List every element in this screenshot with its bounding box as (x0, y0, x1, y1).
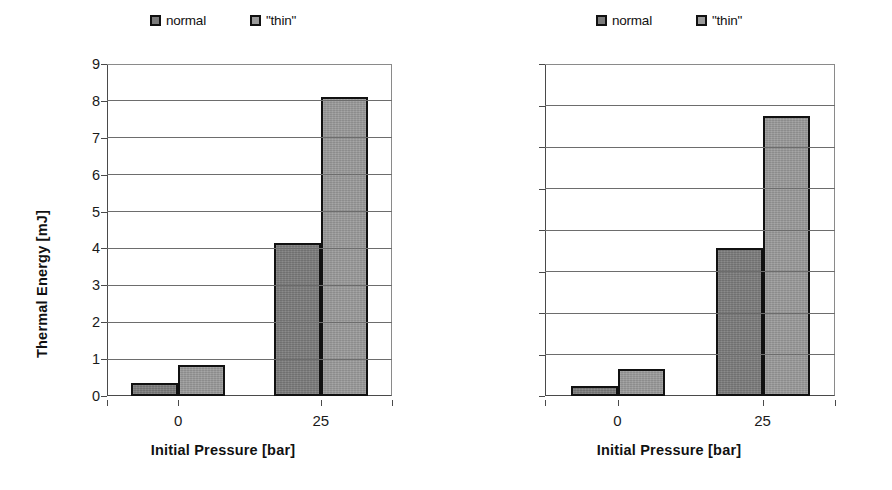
gridline (545, 354, 835, 355)
gridline (545, 188, 835, 189)
y-axis-tick-label: 4 (92, 240, 100, 256)
y-axis-tick (539, 396, 545, 397)
legend-label-thin: "thin" (712, 14, 742, 27)
gridline (107, 174, 392, 175)
y-axis-tick (101, 396, 107, 397)
y-axis-tick (539, 147, 545, 148)
x-axis-title-right: Initial Pressure [bar] (446, 442, 892, 458)
gridline (107, 248, 392, 249)
legend-item-thin: "thin" (250, 14, 296, 27)
x-axis-tick (107, 400, 108, 406)
gridline (545, 64, 835, 65)
bar-group-left (107, 64, 392, 396)
x-axis-title-left: Initial Pressure [bar] (0, 442, 446, 458)
chart-panel-thermal-energy: normal "thin" Thermal Energy [mJ] 012345… (0, 0, 446, 490)
y-axis-tick-label: 2 (92, 314, 100, 330)
y-axis-tick-label: 7 (92, 130, 100, 146)
legend-right: normal "thin" (446, 14, 892, 27)
gridline (107, 211, 392, 212)
bar-normal-0 (131, 383, 178, 396)
gridline (545, 147, 835, 148)
y-axis-tick (539, 189, 545, 190)
gridline (107, 359, 392, 360)
x-axis-tick (618, 400, 619, 406)
legend-swatch-thin-icon (696, 15, 707, 26)
y-axis-title-left: Thermal Energy [mJ] (34, 210, 50, 358)
bar-thin-0 (618, 369, 665, 396)
y-axis-tick (539, 106, 545, 107)
bar-normal-25 (716, 248, 763, 396)
y-axis-tick (101, 138, 107, 139)
plot-area-left (107, 64, 392, 396)
gridline (107, 100, 392, 101)
gridline (545, 105, 835, 106)
chart-panel-thermal-efficiency: normal "thin" Thermal Efficiency [%] 024… (446, 0, 892, 490)
y-axis-tick (101, 212, 107, 213)
x-axis-tick (763, 400, 764, 406)
y-axis-tick (101, 359, 107, 360)
x-axis-tick (545, 400, 546, 406)
gridline (545, 313, 835, 314)
x-axis-tick (321, 400, 322, 406)
legend-label-normal: normal (612, 14, 652, 27)
y-axis-tick (101, 175, 107, 176)
y-axis-tick-label: 3 (92, 277, 100, 293)
y-axis-tick-label: 8 (92, 93, 100, 109)
gridline (107, 137, 392, 138)
bar-normal-0 (571, 386, 618, 396)
y-axis-tick (539, 272, 545, 273)
bar-thin-25 (321, 97, 368, 396)
plot-area-right (545, 64, 835, 396)
y-axis-tick-label: 5 (92, 204, 100, 220)
y-axis-tick-label: 0 (92, 388, 100, 404)
bar-thin-0 (178, 365, 225, 396)
chart-page: normal "thin" Thermal Energy [mJ] 012345… (0, 0, 892, 490)
gridline (107, 322, 392, 323)
y-axis-tick-labels-left: 0123456789 (74, 64, 100, 396)
y-axis-tick (539, 230, 545, 231)
x-axis-tick (835, 400, 836, 406)
y-axis-tick (539, 313, 545, 314)
legend-item-normal: normal (596, 14, 652, 27)
legend-left: normal "thin" (0, 14, 446, 27)
legend-swatch-thin-icon (250, 15, 261, 26)
legend-item-thin: "thin" (696, 14, 742, 27)
y-axis-tick-label: 1 (92, 351, 100, 367)
x-axis-tick-label: 25 (312, 412, 329, 429)
y-axis-tick (101, 285, 107, 286)
gridline (107, 285, 392, 286)
legend-swatch-normal-icon (596, 15, 607, 26)
y-axis-tick (101, 322, 107, 323)
gridline (545, 271, 835, 272)
y-axis-tick (101, 101, 107, 102)
y-axis-tick (539, 355, 545, 356)
x-axis-tick-label: 25 (754, 412, 771, 429)
gridline (545, 230, 835, 231)
legend-label-normal: normal (166, 14, 206, 27)
gridline (107, 64, 392, 65)
x-axis-tick (392, 400, 393, 406)
x-axis-tick-label: 0 (613, 412, 621, 429)
y-axis-tick-label: 6 (92, 167, 100, 183)
y-axis-tick-label: 9 (92, 56, 100, 72)
y-axis-tick (101, 64, 107, 65)
legend-swatch-normal-icon (150, 15, 161, 26)
x-axis-tick (178, 400, 179, 406)
bar-normal-25 (274, 243, 321, 396)
x-axis-tick-labels-left: 025 (107, 400, 392, 422)
legend-label-thin: "thin" (266, 14, 296, 27)
x-axis-tick-labels-right: 025 (545, 400, 835, 422)
legend-item-normal: normal (150, 14, 206, 27)
x-axis-tick-label: 0 (174, 412, 182, 429)
y-axis-tick (101, 248, 107, 249)
y-axis-tick (539, 64, 545, 65)
